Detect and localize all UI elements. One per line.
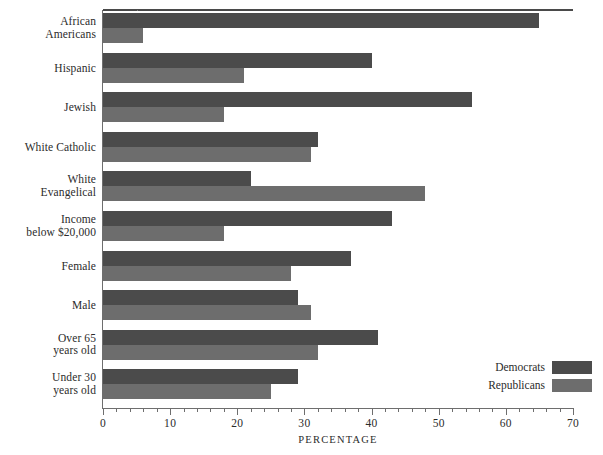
category-label: Over 65years old bbox=[0, 332, 96, 357]
bar-democrats bbox=[103, 13, 539, 28]
tick-major bbox=[237, 408, 238, 415]
tick-minor bbox=[278, 408, 279, 412]
tick-minor bbox=[492, 408, 493, 412]
category-label: White Catholic bbox=[0, 141, 96, 154]
x-axis-title: PERCENTAGE bbox=[103, 434, 573, 445]
legend-swatch bbox=[552, 361, 592, 374]
tick-minor bbox=[318, 408, 319, 412]
category-label: Under 30years old bbox=[0, 371, 96, 396]
tick-major bbox=[304, 408, 305, 415]
tick-major bbox=[439, 408, 440, 415]
legend-label: Democrats bbox=[495, 361, 545, 373]
bar-democrats bbox=[103, 53, 372, 68]
tick-minor bbox=[184, 408, 185, 412]
bar-republicans bbox=[103, 147, 311, 162]
tick-minor bbox=[224, 408, 225, 412]
tick-minor bbox=[331, 408, 332, 412]
chart-legend: DemocratsRepublicans bbox=[452, 360, 592, 396]
tick-minor bbox=[385, 408, 386, 412]
bar-republicans bbox=[103, 186, 425, 201]
category-label-line: Female bbox=[0, 260, 96, 273]
tick-major bbox=[573, 408, 574, 415]
bar-republicans bbox=[103, 266, 291, 281]
bar-group bbox=[103, 53, 372, 83]
category-label-line: years old bbox=[0, 344, 96, 357]
plot-top-border bbox=[103, 9, 573, 11]
clipped-title bbox=[0, 0, 603, 4]
tick-minor bbox=[345, 408, 346, 412]
bar-republicans bbox=[103, 226, 224, 241]
category-label: Female bbox=[0, 260, 96, 273]
tick-major bbox=[506, 408, 507, 415]
tick-minor bbox=[412, 408, 413, 412]
bar-republicans bbox=[103, 107, 224, 122]
bar-group bbox=[103, 330, 378, 360]
bar-group bbox=[103, 132, 318, 162]
bar-republicans bbox=[103, 384, 271, 399]
bar-group bbox=[103, 290, 311, 320]
x-tick-label: 70 bbox=[567, 417, 579, 429]
x-tick-label: 20 bbox=[231, 417, 243, 429]
bar-democrats bbox=[103, 211, 392, 226]
x-tick-label: 30 bbox=[298, 417, 310, 429]
tick-minor bbox=[479, 408, 480, 412]
tick-minor bbox=[251, 408, 252, 412]
tick-major bbox=[103, 408, 104, 415]
tick-minor bbox=[264, 408, 265, 412]
x-tick-label: 40 bbox=[366, 417, 378, 429]
x-axis-ticks bbox=[103, 408, 573, 416]
tick-minor bbox=[546, 408, 547, 412]
x-tick-label: 50 bbox=[433, 417, 445, 429]
tick-major bbox=[170, 408, 171, 415]
bar-democrats bbox=[103, 92, 472, 107]
category-label: WhiteEvangelical bbox=[0, 173, 96, 198]
x-tick-label: 0 bbox=[100, 417, 106, 429]
tick-minor bbox=[358, 408, 359, 412]
legend-item: Democrats bbox=[452, 360, 592, 374]
category-label: Incomebelow $20,000 bbox=[0, 213, 96, 238]
category-label-line: White bbox=[0, 173, 96, 186]
category-label-line: Evangelical bbox=[0, 186, 96, 199]
category-label-line: Americans bbox=[0, 28, 96, 41]
category-label: Male bbox=[0, 299, 96, 312]
x-tick-label: 10 bbox=[164, 417, 176, 429]
tick-minor bbox=[197, 408, 198, 412]
bar-republicans bbox=[103, 345, 318, 360]
tick-minor bbox=[291, 408, 292, 412]
legend-item: Republicans bbox=[452, 378, 592, 392]
tick-minor bbox=[452, 408, 453, 412]
category-label-line: Male bbox=[0, 299, 96, 312]
bar-republicans bbox=[103, 305, 311, 320]
tick-minor bbox=[398, 408, 399, 412]
bar-group bbox=[103, 92, 472, 122]
category-label-line: Hispanic bbox=[0, 62, 96, 75]
category-label-line: Income bbox=[0, 213, 96, 226]
bar-democrats bbox=[103, 369, 298, 384]
tick-minor bbox=[560, 408, 561, 412]
category-label-line: White Catholic bbox=[0, 141, 96, 154]
tick-minor bbox=[143, 408, 144, 412]
category-label-line: years old bbox=[0, 384, 96, 397]
x-tick-label: 60 bbox=[500, 417, 512, 429]
bar-group bbox=[103, 251, 351, 281]
x-axis-tick-labels: 010203040506070 bbox=[0, 417, 603, 433]
bar-democrats bbox=[103, 290, 298, 305]
legend-swatch bbox=[552, 379, 592, 392]
tick-minor bbox=[157, 408, 158, 412]
tick-minor bbox=[425, 408, 426, 412]
tick-minor bbox=[210, 408, 211, 412]
category-label-line: Under 30 bbox=[0, 371, 96, 384]
tick-minor bbox=[533, 408, 534, 412]
tick-minor bbox=[466, 408, 467, 412]
tick-minor bbox=[116, 408, 117, 412]
bar-group bbox=[103, 13, 539, 43]
category-label-line: Over 65 bbox=[0, 332, 96, 345]
bar-republicans bbox=[103, 28, 143, 43]
bar-group bbox=[103, 211, 392, 241]
category-label-line: Jewish bbox=[0, 101, 96, 114]
bar-republicans bbox=[103, 68, 244, 83]
tick-minor bbox=[130, 408, 131, 412]
tick-minor bbox=[519, 408, 520, 412]
category-label: Jewish bbox=[0, 101, 96, 114]
legend-label: Republicans bbox=[488, 379, 545, 391]
